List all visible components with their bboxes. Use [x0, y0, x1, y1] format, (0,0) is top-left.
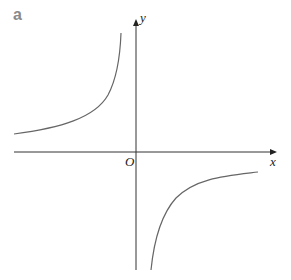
curve-left-branch: [14, 33, 121, 134]
y-axis-arrow-icon: [133, 19, 139, 26]
graph: [0, 0, 291, 280]
curve-right-branch: [151, 172, 258, 270]
origin-label: O: [125, 154, 134, 170]
y-axis-label: y: [140, 10, 146, 26]
x-axis-label: x: [270, 154, 276, 170]
